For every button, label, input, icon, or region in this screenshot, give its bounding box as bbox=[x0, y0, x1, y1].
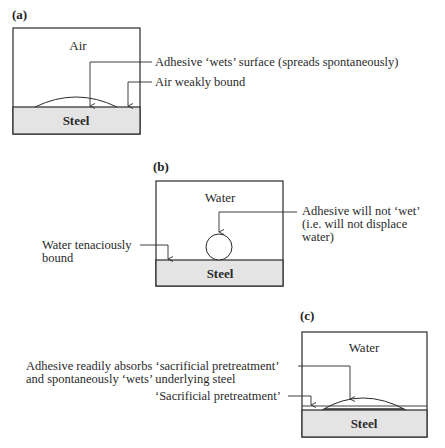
panel-c-medium: Water bbox=[349, 340, 380, 356]
panel-c-callout-adhesive-2: and spontaneously ‘wets’ underlying stee… bbox=[26, 373, 235, 386]
panel-a-substrate: Steel bbox=[63, 113, 90, 129]
panel-c-label: (c) bbox=[300, 308, 314, 324]
panel-a-label: (a) bbox=[12, 7, 27, 23]
panel-a-medium: Air bbox=[69, 38, 86, 54]
panel-b-adhesive-bead bbox=[206, 234, 232, 260]
panel-b-medium: Water bbox=[205, 190, 236, 206]
panel-b-substrate: Steel bbox=[207, 266, 234, 282]
panel-b-label: (b) bbox=[153, 159, 169, 175]
panel-a-callout-adhesive: Adhesive ‘wets’ surface (spreads spontan… bbox=[155, 56, 398, 69]
panel-c-substrate: Steel bbox=[351, 416, 378, 432]
panel-b-callout-adhesive-3: water) bbox=[302, 231, 334, 244]
panel-a-callout-air: Air weakly bound bbox=[155, 76, 245, 89]
panel-b-callout-water-2: bound bbox=[42, 252, 73, 265]
panel-c-callout-pretreatment: ‘Sacrificial pretreatment’ bbox=[155, 390, 281, 403]
